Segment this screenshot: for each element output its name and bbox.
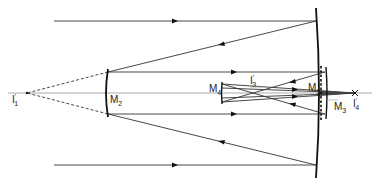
arrow-right-icon [172, 19, 178, 24]
arrow-right-icon [231, 70, 237, 75]
image-point-i1 [26, 92, 28, 94]
mirror-m4 [222, 82, 223, 104]
ray-m1-to-m2-top [108, 21, 316, 72]
arrow-left-icon [218, 42, 225, 47]
ray-m1-to-m2-bottom [108, 114, 316, 165]
virtual-ray-bottom [27, 93, 108, 114]
converging-beam [320, 91, 355, 96]
label-i4: I'4 [353, 97, 359, 111]
virtual-ray-top [27, 72, 108, 93]
arrow-left-icon [289, 79, 296, 84]
arrow-left-icon [289, 103, 296, 108]
label-m2: M2 [110, 94, 122, 107]
label-i1: I'1 [12, 93, 18, 107]
arrow-right-icon [172, 163, 178, 168]
arrow-left-icon [218, 140, 225, 145]
arrow-right-icon [231, 112, 237, 117]
label-m4: M4 [209, 83, 221, 96]
telescope-ray-diagram: I'1 M2 M4 I'3 M1 M3 I'4 [0, 0, 379, 186]
label-m3: M3 [334, 101, 346, 114]
label-i3: I'3 [250, 74, 256, 88]
